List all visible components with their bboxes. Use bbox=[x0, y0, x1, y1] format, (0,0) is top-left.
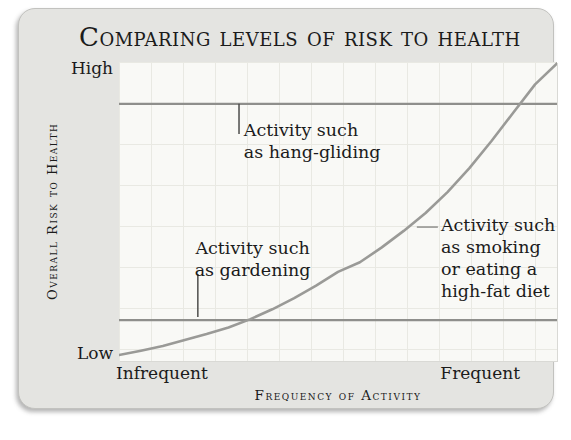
risk-comparison-figure: Comparing levels of risk to health High … bbox=[0, 0, 571, 440]
annotation-smoking-high-fat-diet: Activity suchas smokingor eating ahigh-f… bbox=[441, 214, 555, 302]
annotation-hang-gliding-line: Activity such bbox=[244, 119, 381, 141]
annotation-hang-gliding: Activity suchas hang-gliding bbox=[244, 119, 381, 163]
x-axis-min-label: Infrequent bbox=[116, 363, 208, 383]
annotation-smoking-high-fat-diet-line: high-fat diet bbox=[441, 280, 555, 302]
annotation-gardening: Activity suchas gardening bbox=[195, 237, 311, 281]
plot-area: Activity suchas hang-glidingActivity suc… bbox=[119, 62, 557, 361]
x-axis-max-label: Frequent bbox=[440, 363, 520, 383]
annotation-smoking-high-fat-diet-line: Activity such bbox=[441, 214, 555, 236]
annotation-layer: Activity suchas hang-glidingActivity suc… bbox=[119, 62, 557, 361]
y-axis-min-label: Low bbox=[61, 343, 113, 363]
annotation-hang-gliding-line: as hang-gliding bbox=[244, 141, 381, 163]
y-axis-max-label: High bbox=[61, 58, 113, 78]
annotation-gardening-line: Activity such bbox=[195, 237, 311, 259]
annotation-smoking-high-fat-diet-line: or eating a bbox=[441, 258, 555, 280]
x-axis-title: Frequency of Activity bbox=[119, 387, 557, 403]
annotation-gardening-line: as gardening bbox=[195, 259, 311, 281]
annotation-smoking-high-fat-diet-line: as smoking bbox=[441, 236, 555, 258]
chart-title: Comparing levels of risk to health bbox=[79, 22, 521, 52]
y-axis-title: Overall Risk to Health bbox=[39, 62, 65, 361]
chart-card: Comparing levels of risk to health High … bbox=[18, 8, 554, 409]
